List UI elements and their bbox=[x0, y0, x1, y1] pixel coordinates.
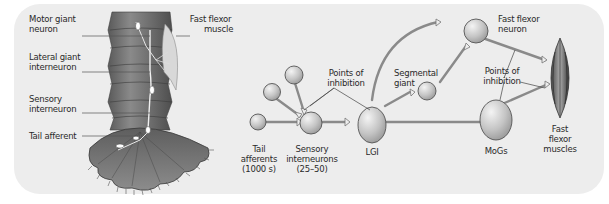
label-line: Fast bbox=[540, 124, 580, 134]
label-segmental-giant: Segmental giant bbox=[394, 68, 438, 88]
label-line: interneuron bbox=[29, 62, 80, 72]
label-line: inhibition bbox=[476, 76, 528, 86]
crayfish-tail-illustration bbox=[82, 12, 214, 195]
label-mogs: MoGs bbox=[480, 146, 512, 156]
label-line: Lateral giant bbox=[29, 52, 80, 62]
label-points-of-inhibition-1: Points of inhibition bbox=[318, 68, 374, 88]
label-lgi: LGI bbox=[358, 147, 386, 157]
label-line: Fast flexor bbox=[498, 14, 539, 24]
label-lateral-giant-interneuron: Lateral giant interneuron bbox=[29, 52, 80, 72]
label-line: neuron bbox=[29, 24, 76, 34]
label-tail-afferents: Tail afferents (1000 s) bbox=[240, 144, 278, 174]
label-line: giant bbox=[394, 78, 438, 88]
lgi-neuron bbox=[358, 107, 386, 143]
label-line: Points of bbox=[318, 68, 374, 78]
label-line: Points of bbox=[476, 66, 528, 76]
label-fast-flexor-muscle: Fast flexor muscle bbox=[188, 14, 233, 34]
label-line: afferents bbox=[240, 154, 278, 164]
fast-flexor-neuron bbox=[464, 19, 488, 43]
label-line: LGI bbox=[358, 147, 386, 157]
label-sensory-interneuron: Sensory interneuron bbox=[29, 94, 76, 114]
label-line: interneuron bbox=[29, 104, 76, 114]
label-points-of-inhibition-2: Points of inhibition bbox=[476, 66, 528, 86]
label-line: Segmental bbox=[394, 68, 438, 78]
label-line: neuron bbox=[498, 24, 539, 34]
label-tail-afferent: Tail afferent bbox=[29, 131, 77, 141]
label-fast-flexor-neuron: Fast flexor neuron bbox=[498, 14, 539, 34]
label-motor-giant-neuron: Motor giant neuron bbox=[29, 14, 76, 34]
fast-flexor-muscle-shape bbox=[551, 38, 569, 118]
label-fast-flexor-muscles: Fast flexor muscles bbox=[540, 124, 580, 154]
label-line: Motor giant bbox=[29, 14, 76, 24]
label-line: interneurons bbox=[283, 154, 341, 164]
label-line: Tail afferent bbox=[29, 131, 77, 141]
label-line: Tail bbox=[240, 144, 278, 154]
tail-afferent-neuron bbox=[264, 84, 281, 101]
tail-afferent-neuron bbox=[250, 114, 266, 130]
label-line: muscles bbox=[540, 144, 580, 154]
label-line: Sensory bbox=[29, 94, 76, 104]
label-line: Sensory bbox=[283, 144, 341, 154]
label-sensory-interneurons: Sensory interneurons (25–50) bbox=[283, 144, 341, 174]
label-line: (1000 s) bbox=[240, 164, 278, 174]
label-line: Fast flexor bbox=[188, 14, 233, 24]
label-line: (25–50) bbox=[283, 164, 341, 174]
label-line: flexor bbox=[540, 134, 580, 144]
sensory-interneuron bbox=[300, 112, 322, 134]
mogs-neuron bbox=[480, 100, 512, 140]
tail-afferent-neuron bbox=[285, 66, 303, 84]
label-line: MoGs bbox=[480, 146, 512, 156]
label-line: muscle bbox=[188, 24, 233, 34]
label-line: inhibition bbox=[318, 78, 374, 88]
